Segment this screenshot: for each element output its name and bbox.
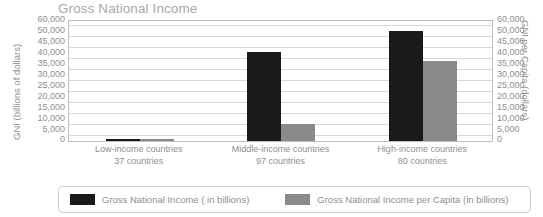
y-tick-label: 50,000	[19, 26, 65, 35]
x-axis-category: Middle-income countries97 countries	[210, 144, 352, 167]
y-tick-label: 15,000	[497, 103, 543, 112]
chart-container: Gross National Income GNI (billions of d…	[0, 0, 543, 217]
legend-item-label: Gross National Income ( in billions)	[102, 194, 249, 205]
y-tick-label: 45,000	[497, 37, 543, 46]
y-tick-label: 35,000	[19, 59, 65, 68]
y-tick-label: 30,000	[497, 70, 543, 79]
x-axis-category: High-income countries80 countries	[351, 144, 493, 167]
bar-group	[211, 21, 353, 141]
category-name: Middle-income countries	[210, 144, 352, 156]
y-tick-label: 25,000	[19, 81, 65, 90]
category-name: High-income countries	[351, 144, 493, 156]
bar[interactable]	[106, 139, 140, 141]
bar-group	[69, 21, 211, 141]
category-name: Low-income countries	[68, 144, 210, 156]
y-tick-label: 0	[497, 135, 543, 144]
chart-title: Gross National Income	[58, 1, 197, 16]
y-tick-label: 5,000	[497, 125, 543, 134]
y-tick-label: 50,000	[497, 26, 543, 35]
y-tick-label: 0	[19, 135, 65, 144]
bar-groups	[69, 21, 492, 141]
y-tick-label: 10,000	[19, 114, 65, 123]
x-axis-category: Low-income countries37 countries	[68, 144, 210, 167]
y-tick-label: 45,000	[19, 37, 65, 46]
bar-group	[352, 21, 494, 141]
y-tick-label: 40,000	[497, 48, 543, 57]
bar[interactable]	[247, 52, 281, 141]
x-axis-category-labels: Low-income countries37 countriesMiddle-i…	[68, 144, 493, 174]
category-count: 80 countries	[351, 156, 493, 168]
y-tick-label: 30,000	[19, 70, 65, 79]
y-tick-label: 25,000	[497, 81, 543, 90]
y-tick-label: 20,000	[497, 92, 543, 101]
bar[interactable]	[423, 61, 457, 141]
legend-item-gross-national-income[interactable]: Gross National Income ( in billions)	[70, 194, 249, 205]
y-axis-right-ticks: 60,00050,00045,00040,00035,00030,00025,0…	[497, 15, 543, 147]
bar[interactable]	[281, 124, 315, 141]
y-tick-label: 20,000	[19, 92, 65, 101]
y-tick-label: 40,000	[19, 48, 65, 57]
y-axis-left-ticks: 60,00050,00045,00040,00035,00030,00025,0…	[19, 15, 65, 147]
y-tick-label: 15,000	[19, 103, 65, 112]
bar[interactable]	[389, 31, 423, 141]
category-count: 97 countries	[210, 156, 352, 168]
chart-legend: Gross National Income ( in billions) Gro…	[58, 186, 531, 213]
y-tick-label: 60,000	[497, 15, 543, 24]
legend-swatch-icon	[285, 194, 310, 205]
plot-area	[68, 20, 493, 142]
y-tick-label: 60,000	[19, 15, 65, 24]
category-count: 37 countries	[68, 156, 210, 168]
bar[interactable]	[140, 139, 174, 141]
y-tick-label: 35,000	[497, 59, 543, 68]
y-tick-label: 5,000	[19, 125, 65, 134]
legend-swatch-icon	[70, 194, 95, 205]
legend-item-gni-per-capita[interactable]: Gross National Income per Capita (in bil…	[285, 194, 508, 205]
y-tick-label: 10,000	[497, 114, 543, 123]
legend-item-label: Gross National Income per Capita (in bil…	[317, 194, 508, 205]
